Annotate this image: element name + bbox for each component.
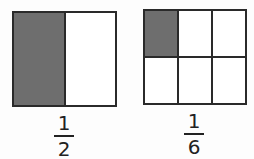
- fraction-label-half: 1 2: [54, 113, 74, 159]
- fraction-model-sixth: [143, 9, 247, 105]
- shaded-part: [13, 12, 65, 106]
- denominator: 6: [188, 137, 201, 157]
- unshaded-part: [144, 57, 178, 104]
- unshaded-part: [212, 57, 246, 104]
- denominator: 2: [58, 139, 71, 159]
- fraction-label-sixth: 1 6: [184, 111, 204, 157]
- shaded-part: [144, 10, 178, 57]
- numerator: 1: [58, 113, 71, 133]
- numerator: 1: [188, 111, 201, 131]
- unshaded-part: [65, 12, 117, 106]
- fraction-model-half: [12, 11, 117, 107]
- unshaded-part: [178, 57, 212, 104]
- unshaded-part: [178, 10, 212, 57]
- unshaded-part: [212, 10, 246, 57]
